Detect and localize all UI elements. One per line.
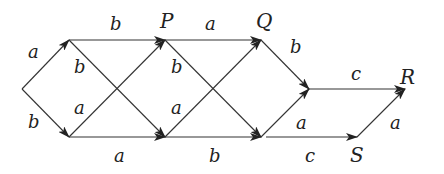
edge-label: c (351, 63, 361, 84)
edge-label: b (28, 111, 40, 132)
node-label-S: S (350, 143, 364, 167)
edge-label: b (209, 145, 221, 166)
node-label-P: P (159, 9, 174, 33)
edge-label: b (110, 13, 122, 34)
edge-label: b (290, 36, 302, 57)
edge-Q-n7 (261, 40, 309, 89)
edge-label: a (205, 13, 216, 34)
edge-label: a (390, 112, 401, 133)
node-labels-group: PQRS (159, 9, 415, 167)
edge-label: a (296, 112, 307, 133)
node-label-R: R (399, 65, 415, 89)
node-label-Q: Q (256, 9, 272, 33)
edge-label: a (28, 41, 39, 62)
edge-label: a (74, 97, 85, 118)
edge-label: b (74, 56, 86, 77)
edge-label: a (114, 145, 125, 166)
edge-label: a (171, 97, 182, 118)
edge-label: c (305, 145, 315, 166)
automaton-diagram: abbbaaababbacca PQRS (0, 0, 444, 174)
edge-label: b (171, 56, 183, 77)
edges-group (22, 40, 405, 137)
